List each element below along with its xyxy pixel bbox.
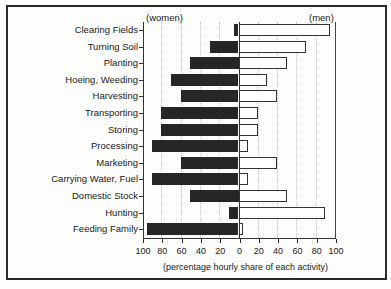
y-tick: [139, 213, 143, 214]
men-bar: [239, 24, 331, 36]
women-bar: [161, 124, 238, 136]
women-bar: [210, 41, 239, 53]
category-label: Transporting: [85, 107, 138, 119]
y-tick: [139, 30, 143, 31]
category-label: Hunting: [105, 207, 138, 219]
bar-row: [144, 107, 335, 119]
y-tick: [139, 229, 143, 230]
women-bar: [190, 190, 238, 202]
women-bar: [190, 57, 238, 69]
y-tick: [139, 130, 143, 131]
bar-row: [144, 157, 335, 169]
women-bar: [152, 173, 239, 185]
x-tick: [259, 239, 260, 243]
category-label: Hoeing, Weeding: [65, 74, 138, 86]
y-tick: [139, 80, 143, 81]
x-tick: [162, 239, 163, 243]
men-bar: [239, 124, 258, 136]
category-label: Planting: [104, 57, 138, 69]
category-label: Clearing Fields: [75, 24, 138, 36]
y-tick: [139, 196, 143, 197]
bar-row: [144, 190, 335, 202]
women-bar: [181, 90, 239, 102]
x-tick: [278, 239, 279, 243]
men-bar: [239, 190, 287, 202]
women-bar: [229, 207, 239, 219]
y-tick: [139, 63, 143, 64]
men-bar: [239, 207, 326, 219]
y-tick: [139, 113, 143, 114]
bar-row: [144, 207, 335, 219]
x-tick: [143, 239, 144, 243]
category-label: Marketing: [96, 157, 138, 169]
men-bar: [239, 57, 287, 69]
x-tick-label: 100: [324, 246, 348, 256]
category-label: Harvesting: [93, 90, 138, 102]
women-bar: [147, 223, 239, 235]
bar-row: [144, 24, 335, 36]
x-tick: [317, 239, 318, 243]
bar-row: [144, 140, 335, 152]
men-bar: [239, 157, 278, 169]
bar-row: [144, 90, 335, 102]
women-bar: [152, 140, 239, 152]
plot-area: [143, 22, 336, 239]
y-tick: [139, 163, 143, 164]
x-tick: [297, 239, 298, 243]
men-bar: [239, 74, 268, 86]
women-bar: [171, 74, 239, 86]
y-tick: [139, 96, 143, 97]
x-axis-title: (percentage hourly share of each activit…: [163, 262, 328, 272]
x-tick: [201, 239, 202, 243]
men-bar: [239, 41, 307, 53]
men-bar: [239, 173, 249, 185]
bar-row: [144, 41, 335, 53]
men-bar: [239, 140, 249, 152]
y-tick: [139, 146, 143, 147]
category-label: Processing: [91, 140, 138, 152]
x-tick: [336, 239, 337, 243]
bar-row: [144, 223, 335, 235]
category-label: Storing: [108, 124, 138, 136]
x-tick: [182, 239, 183, 243]
y-tick: [139, 179, 143, 180]
men-bar: [239, 223, 244, 235]
women-bar: [181, 157, 239, 169]
y-tick: [139, 47, 143, 48]
x-tick: [220, 239, 221, 243]
category-label: Turning Soil: [88, 41, 138, 53]
category-label: Carrying Water, Fuel: [51, 173, 138, 185]
category-label: Domestic Stock: [72, 190, 138, 202]
women-bar: [161, 107, 238, 119]
bar-row: [144, 57, 335, 69]
bar-row: [144, 173, 335, 185]
men-bar: [239, 107, 258, 119]
category-label: Feeding Family: [73, 223, 138, 235]
x-tick: [240, 239, 241, 243]
bar-row: [144, 74, 335, 86]
bar-row: [144, 124, 335, 136]
men-bar: [239, 90, 278, 102]
